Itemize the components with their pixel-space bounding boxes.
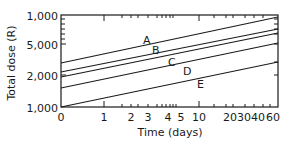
dose-time-chart: A B C D E 1,000 5,000 2,000 1,000 0 1 2 … [0, 0, 290, 149]
y-tick-label: 1,000 [27, 102, 59, 115]
x-axis-title: Time (days) [137, 126, 203, 139]
series-label-d: D [183, 65, 191, 78]
series-label-e: E [197, 78, 204, 91]
x-tick-labels: 0 1 2 3 4 5 10 20 30 40 60 [58, 111, 281, 124]
x-tick-label: 2 [128, 111, 135, 124]
series-labels: A B C D E [143, 34, 204, 91]
series-label-b: B [152, 44, 160, 57]
y-tick-label: 5,000 [27, 39, 59, 52]
x-tick-label: 5 [178, 111, 185, 124]
x-axis-ticks-top [104, 15, 263, 21]
x-tick-label: 40 [251, 111, 265, 124]
x-tick-label: 10 [192, 111, 206, 124]
x-tick-label: 30 [237, 111, 251, 124]
y-axis-ticks-right [274, 19, 278, 75]
y-axis-title: Total dose (R) [5, 25, 18, 101]
y-tick-label: 1,000 [27, 10, 59, 23]
y-tick-labels: 1,000 5,000 2,000 1,000 [27, 10, 59, 115]
x-tick-label: 20 [223, 111, 237, 124]
x-tick-label: 60 [266, 111, 280, 124]
y-tick-label: 2,000 [27, 70, 59, 83]
series-label-c: C [168, 56, 176, 69]
x-tick-label: 3 [145, 111, 152, 124]
x-tick-label: 0 [58, 111, 65, 124]
series-label-a: A [143, 34, 151, 47]
y-axis-ticks-left [61, 19, 66, 75]
x-tick-label: 1 [101, 111, 108, 124]
x-tick-label: 4 [165, 111, 172, 124]
x-axis-ticks-bottom [104, 101, 270, 107]
